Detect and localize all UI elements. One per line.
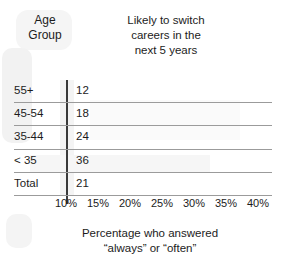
chart-plot-area: 55+1245-541835-4424< 3536Total21 <box>0 80 287 196</box>
x-axis-tick-label: 40% <box>241 197 275 209</box>
chart-title-line-3: next 5 years <box>96 43 236 58</box>
table-row: 55+12 <box>14 80 272 103</box>
row-age-group-label: 45-54 <box>14 107 43 119</box>
age-group-header-line-2: Group <box>14 28 76 43</box>
table-row: 35-4424 <box>14 126 272 149</box>
x-axis-tick-label: 15% <box>81 197 115 209</box>
age-group-header-line-1: Age <box>14 13 76 28</box>
row-percentage-value: 36 <box>76 154 89 166</box>
chart-title-line-2: careers in the <box>96 28 236 43</box>
row-percentage-value: 21 <box>76 177 89 189</box>
table-row: 45-5418 <box>14 103 272 126</box>
chart-caption: Percentage who answered “always” or “oft… <box>28 226 272 256</box>
table-row: Total21 <box>14 173 272 196</box>
caption-line-1: Percentage who answered <box>28 226 272 241</box>
chart-title-line-1: Likely to switch <box>96 13 236 28</box>
chart-header: Age Group Likely to switch careers in th… <box>0 0 287 72</box>
chart-title: Likely to switch careers in the next 5 y… <box>96 13 236 58</box>
x-axis-tick-label: 35% <box>209 197 243 209</box>
row-percentage-value: 12 <box>76 84 89 96</box>
age-group-column-header: Age Group <box>14 13 76 43</box>
row-age-group-label: 35-44 <box>14 130 43 142</box>
x-axis-tick-label: 30% <box>177 197 211 209</box>
row-age-group-label: < 35 <box>14 154 37 166</box>
row-percentage-value: 24 <box>76 130 89 142</box>
x-axis-tick-labels: 10%15%20%25%30%35%40% <box>0 197 287 213</box>
row-age-group-label: 55+ <box>14 84 34 96</box>
table-row: < 3536 <box>14 150 272 173</box>
x-axis-tick-label: 10% <box>49 197 83 209</box>
caption-line-2: “always” or “often” <box>28 241 272 256</box>
x-axis-tick-label: 20% <box>113 197 147 209</box>
row-percentage-value: 18 <box>76 107 89 119</box>
row-age-group-label: Total <box>14 177 38 189</box>
x-axis-tick-label: 25% <box>145 197 179 209</box>
